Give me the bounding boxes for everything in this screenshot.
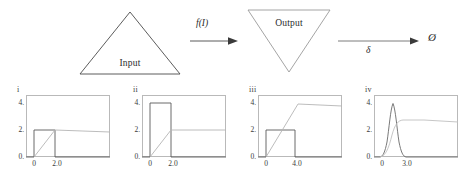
terminal-symbol: Ø bbox=[428, 31, 436, 43]
panel-i-ytick-4: 4. bbox=[8, 98, 24, 107]
panel-ii-ytick-0: 0. bbox=[124, 152, 140, 161]
panel-i-curves bbox=[26, 95, 110, 157]
panel-i-xtick-1: 2.0 bbox=[46, 159, 68, 168]
panel-iii-xtick-0: 0 bbox=[258, 159, 274, 168]
panel-iv-tag: iv bbox=[365, 85, 372, 94]
flow-diagram-svg bbox=[0, 0, 467, 86]
panel-iv-ytick-2: 2. bbox=[356, 125, 372, 134]
panel-iii-response-trace bbox=[266, 104, 342, 157]
panel-iv-curves bbox=[374, 95, 458, 157]
panel-iv: iv 0. 2. 4. 0 3.0 bbox=[348, 86, 464, 180]
panel-ii-curves bbox=[142, 95, 226, 157]
panel-ii-tag: ii bbox=[133, 85, 138, 94]
panel-iv-xtick-1: 3.0 bbox=[396, 159, 418, 168]
panel-i-stimulus-trace bbox=[26, 130, 110, 157]
panel-iv-ytick-4: 4. bbox=[356, 98, 372, 107]
panel-i-ytick-0: 0. bbox=[8, 152, 24, 161]
panel-i-tag: i bbox=[17, 85, 20, 94]
arrow-head-1-icon bbox=[228, 37, 238, 45]
panel-iv-xtick-0: 0 bbox=[374, 159, 390, 168]
input-node-label: Input bbox=[80, 58, 180, 68]
panel-iv-ytick-0: 0. bbox=[356, 152, 372, 161]
panel-iii-tag: iii bbox=[249, 85, 257, 94]
panel-iii-stimulus-trace bbox=[258, 130, 342, 157]
panel-i-xtick-0: 0 bbox=[26, 159, 42, 168]
panel-iii-curves bbox=[258, 95, 342, 157]
panel-ii: ii 0. 2. 4. 0 2.0 bbox=[116, 86, 232, 180]
flow-diagram: Input Output f(I) δ Ø bbox=[0, 0, 467, 86]
panel-iii-ytick-4: 4. bbox=[240, 98, 256, 107]
transfer-function-label: f(I) bbox=[196, 18, 208, 28]
panel-ii-response-trace bbox=[150, 130, 226, 157]
arrow-head-2-icon bbox=[410, 37, 419, 44]
panel-iii-ytick-2: 2. bbox=[240, 125, 256, 134]
panel-ii-ytick-2: 2. bbox=[124, 125, 140, 134]
panel-i-response-trace bbox=[34, 130, 110, 157]
panel-i-ytick-2: 2. bbox=[8, 125, 24, 134]
panel-iii-ytick-0: 0. bbox=[240, 152, 256, 161]
panel-ii-xtick-1: 2.0 bbox=[162, 159, 184, 168]
panel-iv-response-trace bbox=[380, 120, 458, 157]
panel-i: i 0. 2. 4. 0 2.0 bbox=[0, 86, 116, 180]
panel-iii: iii 0. 2. 4. 0 4.0 bbox=[232, 86, 348, 180]
panel-ii-xtick-0: 0 bbox=[142, 159, 158, 168]
decay-rate-label: δ bbox=[366, 45, 370, 55]
panel-iii-xtick-1: 4.0 bbox=[286, 159, 308, 168]
output-node-label: Output bbox=[248, 18, 330, 28]
panel-row: i 0. 2. 4. 0 2.0 ii 0. 2. 4. bbox=[0, 86, 467, 180]
figure-root: Input Output f(I) δ Ø i 0. 2. 4. 0 2.0 i… bbox=[0, 0, 467, 180]
panel-iv-stimulus-trace bbox=[374, 104, 458, 158]
panel-ii-ytick-4: 4. bbox=[124, 98, 140, 107]
